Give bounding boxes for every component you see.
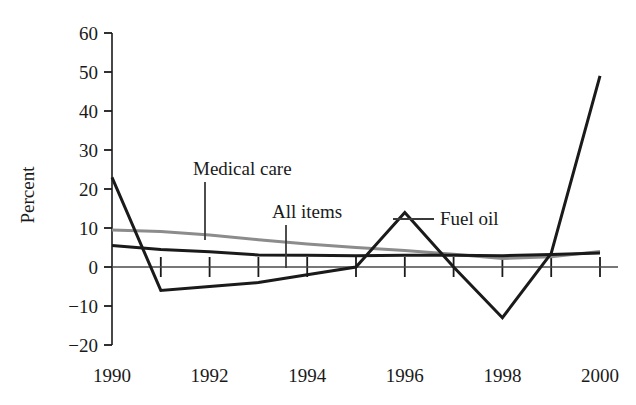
line-chart: 6050403020100−10−20 19901992199419961998… (0, 0, 636, 405)
y-axis-tick-label: 60 (79, 23, 98, 44)
y-axis-label-group: 6050403020100−10−20 (68, 23, 98, 356)
y-axis-tick-label: 40 (79, 101, 98, 122)
x-axis-tick-label: 1998 (483, 365, 521, 386)
y-axis-tick-label: −20 (68, 335, 98, 356)
y-axis-tick-label: −10 (68, 296, 98, 317)
y-axis-tick-label: 30 (79, 140, 98, 161)
annotation-label-all-items: All items (272, 201, 342, 222)
x-axis-tick-label: 2000 (581, 365, 619, 386)
x-axis-tick-label: 1990 (93, 365, 131, 386)
x-axis-tick-label: 1992 (191, 365, 229, 386)
annotation-label-medical-care: Medical care (193, 158, 292, 179)
x-axis-label-group: 199019921994199619982000 (93, 365, 619, 386)
y-axis-title: Percent (17, 166, 38, 224)
y-axis-tick-label: 0 (89, 257, 99, 278)
y-axis-tick-label: 50 (79, 62, 98, 83)
y-axis-tick-label: 20 (79, 179, 98, 200)
series-line-fuel-oil (112, 76, 600, 318)
data-series-group (112, 76, 600, 318)
annotation-label-fuel-oil: Fuel oil (440, 208, 499, 229)
y-axis-tick-group (104, 33, 112, 345)
x-axis-tick-label: 1996 (386, 365, 424, 386)
annotation-group: Medical careAll itemsFuel oil (193, 158, 499, 268)
x-axis-tick-label: 1994 (288, 365, 327, 386)
y-axis-tick-label: 10 (79, 218, 98, 239)
chart-container: 6050403020100−10−20 19901992199419961998… (0, 0, 636, 405)
